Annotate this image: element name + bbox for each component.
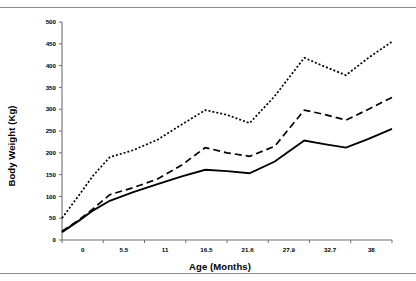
x-tick-label: 11	[162, 246, 169, 253]
x-axis-title: Age (Months)	[120, 261, 320, 272]
x-tick-label: 16.5	[200, 246, 213, 253]
y-tick-label: 150	[46, 171, 57, 178]
x-tick-label: 27.9	[283, 246, 296, 253]
chart-canvas: 050100150200250300350400450500 05.51116.…	[0, 8, 416, 272]
series-line-middle-curve	[62, 97, 392, 231]
y-tick-label: 450	[46, 40, 57, 47]
y-tick-label: 400	[46, 62, 57, 69]
axes-group	[62, 22, 392, 240]
x-axis-ticks: 05.51116.521.627.932.738	[62, 240, 392, 253]
y-tick-label: 300	[46, 105, 57, 112]
figure-page: 050100150200250300350400450500 05.51116.…	[0, 0, 416, 281]
y-tick-label: 350	[46, 84, 57, 91]
bottom-divider-rule	[0, 273, 416, 274]
y-tick-label: 100	[46, 193, 57, 200]
y-axis-title: Body Weight (Kg)	[6, 86, 17, 206]
y-tick-label: 500	[46, 18, 57, 25]
x-tick-label: 38	[368, 246, 375, 253]
x-tick-label: 21.6	[242, 246, 255, 253]
data-series-group	[62, 42, 392, 233]
y-tick-label: 0	[53, 236, 57, 243]
y-tick-label: 50	[49, 214, 56, 221]
x-tick-label: 0	[81, 246, 85, 253]
y-axis-ticks: 050100150200250300350400450500	[46, 18, 62, 243]
series-line-upper-curve	[62, 42, 392, 219]
x-tick-label: 32.7	[324, 246, 337, 253]
x-tick-label: 5.5	[120, 246, 129, 253]
line-chart-figure: 050100150200250300350400450500 05.51116.…	[0, 8, 416, 272]
series-line-lower-curve	[62, 129, 392, 232]
y-tick-label: 250	[46, 127, 57, 134]
y-tick-label: 200	[46, 149, 57, 156]
